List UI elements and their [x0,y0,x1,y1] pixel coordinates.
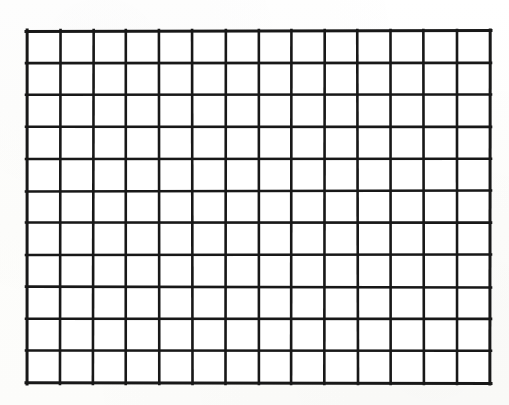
grid-cell [126,127,159,159]
grid-cell [424,95,457,127]
grid-cell [457,159,490,191]
grid-cell [358,223,391,255]
grid-cell [27,191,60,223]
grid-cell [27,127,60,159]
grid-cell [60,31,93,63]
grid-cell [192,287,225,319]
grid-cell [225,95,258,127]
grid-cell [225,319,258,351]
grid-cell [358,319,391,351]
grid-cell [126,191,159,223]
grid-cell [358,95,391,127]
grid-cell [325,159,358,191]
grid-cell [292,319,325,351]
grid-cell [27,287,60,319]
grid-cell [225,31,258,63]
grid-cell [192,159,225,191]
grid-cell [225,159,258,191]
grid-cell [225,191,258,223]
grid-cell [126,287,159,319]
grid-cell [27,351,60,383]
grid-cell [358,127,391,159]
grid-cell [457,95,490,127]
grid-cell [192,127,225,159]
grid-cell [292,127,325,159]
grid-cell [391,127,424,159]
grid-cell [258,319,291,351]
grid-cell [93,351,126,383]
grid-cell [60,159,93,191]
grid-cell [424,351,457,383]
grid-cell [258,63,291,95]
grid-cell [225,255,258,287]
grid-cell [292,351,325,383]
grid-cell [60,319,93,351]
grid-cell [225,127,258,159]
grid-cell [126,351,159,383]
grid-cell [27,255,60,287]
grid-cell [93,95,126,127]
grid-cell [391,287,424,319]
grid-cell [457,319,490,351]
grid-figure [0,0,509,405]
grid-cell [126,159,159,191]
grid-cell [126,31,159,63]
grid-line-vertical [60,30,61,384]
grid-cell [258,127,291,159]
grid-cell [358,287,391,319]
grid-cell [60,63,93,95]
grid-cell [391,159,424,191]
grid-cell [27,223,60,255]
grid-cell [258,287,291,319]
grid-cell [225,223,258,255]
grid-cell [325,351,358,383]
grid-cell [60,287,93,319]
grid-cell [424,287,457,319]
grid-cell [93,287,126,319]
grid-cell [391,223,424,255]
grid-cell [424,319,457,351]
grid-cell [93,223,126,255]
grid-cell [192,319,225,351]
grid-cell [60,351,93,383]
grid-cell [159,159,192,191]
grid-cell [391,95,424,127]
grid-cell [457,31,490,63]
grid-cell [292,31,325,63]
grid-cell [159,223,192,255]
grid-cell [457,255,490,287]
grid-cell [126,319,159,351]
grid-cell [225,287,258,319]
grid-cell [258,351,291,383]
grid-cell [358,63,391,95]
grid-cell [457,287,490,319]
grid-cell [27,319,60,351]
grid-cell [27,63,60,95]
grid-cell [391,31,424,63]
grid-cell [93,191,126,223]
grid-cell [27,95,60,127]
grid-cell [292,95,325,127]
grid-cell [60,255,93,287]
grid-cell [424,63,457,95]
grid-cell [292,223,325,255]
grid-cell [391,255,424,287]
grid-cell [192,351,225,383]
grid-cell [358,351,391,383]
grid-cell [192,255,225,287]
grid-line-vertical [93,30,94,384]
grid-cell [325,95,358,127]
grid-cell [325,287,358,319]
grid-cell [325,319,358,351]
grid-cell [391,63,424,95]
grid-cell [325,127,358,159]
grid-cell [159,287,192,319]
grid-cell [192,31,225,63]
grid-cell [60,95,93,127]
grid-cell [457,191,490,223]
grid-cell [424,127,457,159]
grid-cell [159,191,192,223]
grid-cell [358,31,391,63]
grid-cell [225,351,258,383]
grid-cell [159,95,192,127]
